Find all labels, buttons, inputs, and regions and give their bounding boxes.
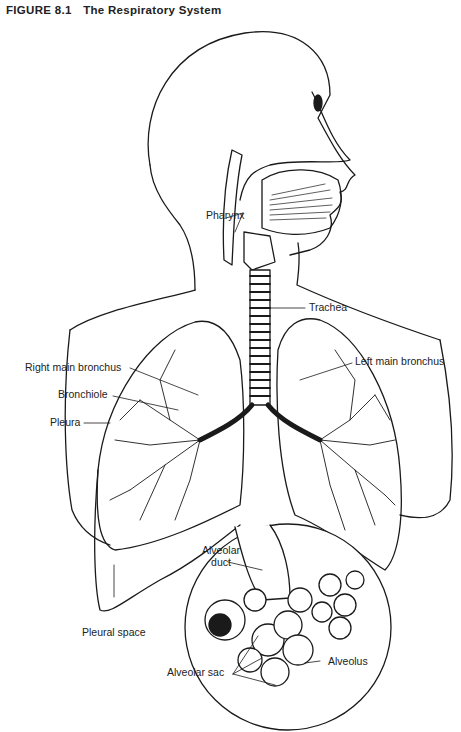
oral-cavity (262, 170, 341, 235)
label-alveolus: Alveolus (328, 656, 368, 668)
label-right-main-bronchus: Right main bronchus (25, 362, 121, 374)
sinus (314, 95, 322, 111)
label-pleural-space: Pleural space (82, 627, 146, 639)
trachea-tube (250, 270, 270, 405)
label-alveolar-sac: Alveolar sac (167, 667, 224, 679)
pharynx-tube (223, 150, 242, 265)
head-outline (148, 32, 355, 255)
left-shoulder (70, 290, 195, 330)
right-lung (97, 321, 244, 550)
label-pharynx: Pharynx (206, 210, 245, 222)
tongue-fibers (270, 184, 332, 220)
label-alveolar-duct: Alveolar duct (196, 545, 246, 568)
label-bronchiole: Bronchiole (58, 389, 108, 401)
label-left-main-bronchus: Left main bronchus (355, 356, 444, 368)
back-of-neck (150, 165, 195, 290)
label-trachea: Trachea (309, 302, 347, 314)
label-alveolar-duct-line2: duct (196, 557, 246, 569)
label-pleura: Pleura (50, 417, 80, 429)
label-alveolar-duct-line1: Alveolar (196, 545, 246, 557)
larynx (244, 232, 275, 270)
